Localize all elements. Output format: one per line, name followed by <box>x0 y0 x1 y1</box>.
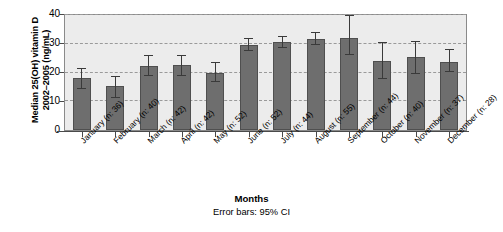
error-cap-upper-september <box>345 15 354 16</box>
y-tick-label-20: 20 <box>38 67 60 77</box>
x-axis-title: Months <box>0 193 503 204</box>
y-axis-title: Median 25(OH) vitamin D 2002–2005 (ng/mL… <box>0 0 34 140</box>
error-cap-lower-may <box>211 81 220 82</box>
error-cap-lower-november <box>411 73 420 74</box>
error-cap-lower-october <box>378 78 387 79</box>
error-bar-november <box>415 42 416 74</box>
gridline-20 <box>65 72 466 73</box>
error-cap-lower-july <box>278 47 287 48</box>
error-cap-upper-may <box>211 62 220 63</box>
error-cap-lower-february <box>111 97 120 98</box>
error-cap-upper-april <box>177 55 186 56</box>
error-cap-lower-june <box>244 50 253 51</box>
error-cap-lower-january <box>77 88 86 89</box>
error-cap-upper-august <box>311 32 320 33</box>
chart-figure: Median 25(OH) vitamin D 2002–2005 (ng/mL… <box>0 0 503 232</box>
error-cap-upper-january <box>77 68 86 69</box>
error-cap-upper-november <box>411 41 420 42</box>
error-bar-october <box>382 43 383 78</box>
error-bar-may <box>215 63 216 82</box>
error-cap-upper-february <box>111 76 120 77</box>
error-bar-september <box>349 16 350 55</box>
gridline-30 <box>65 43 466 44</box>
error-bar-march <box>148 56 149 76</box>
error-bar-january <box>81 69 82 89</box>
error-cap-upper-july <box>278 36 287 37</box>
y-tick-label-0: 0 <box>38 125 60 135</box>
gridline-10 <box>65 100 466 101</box>
gridline-40 <box>65 14 466 15</box>
error-bar-april <box>181 56 182 76</box>
error-cap-upper-october <box>378 42 387 43</box>
y-tick-label-10: 10 <box>38 96 60 106</box>
error-cap-upper-december <box>445 49 454 50</box>
error-cap-lower-august <box>311 44 320 45</box>
error-bar-note: Error bars: 95% CI <box>0 207 503 217</box>
error-cap-upper-march <box>144 55 153 56</box>
error-bar-december <box>449 50 450 72</box>
y-tick-label-40: 40 <box>38 9 60 19</box>
error-cap-upper-june <box>244 38 253 39</box>
error-cap-lower-september <box>345 54 354 55</box>
y-axis-tick-labels: 40 30 20 10 0 <box>36 0 60 145</box>
error-cap-lower-december <box>445 71 454 72</box>
error-bar-february <box>115 77 116 97</box>
y-tick-label-30: 30 <box>38 38 60 48</box>
error-cap-lower-april <box>177 75 186 76</box>
error-cap-lower-march <box>144 75 153 76</box>
